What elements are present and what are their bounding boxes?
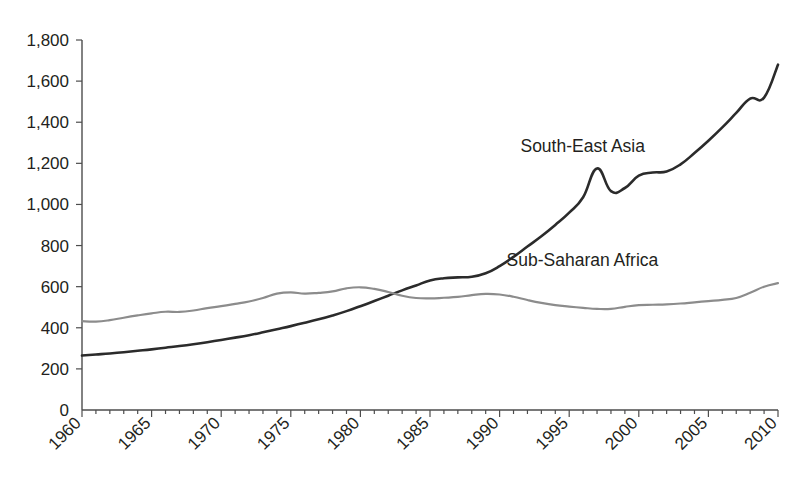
- chart-background: [0, 0, 792, 492]
- y-tick-label: 1,000: [26, 195, 69, 214]
- y-tick-label: 1,600: [26, 72, 69, 91]
- y-tick-label: 1,800: [26, 31, 69, 50]
- y-tick-label: 800: [41, 237, 69, 256]
- series-label-south-east-asia: South-East Asia: [520, 136, 645, 156]
- y-tick-label: 1,200: [26, 154, 69, 173]
- y-tick-label: 1,400: [26, 113, 69, 132]
- chart-container: 02004006008001,0001,2001,4001,6001,800 1…: [0, 0, 792, 492]
- y-tick-label: 200: [41, 360, 69, 379]
- series-label-sub-saharan-africa: Sub-Saharan Africa: [507, 250, 659, 270]
- line-chart: 02004006008001,0001,2001,4001,6001,800 1…: [0, 0, 792, 492]
- y-tick-label: 600: [41, 278, 69, 297]
- y-tick-label: 400: [41, 319, 69, 338]
